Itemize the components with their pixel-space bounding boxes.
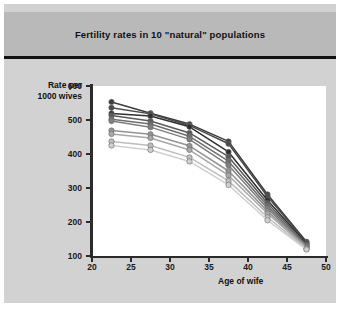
- y-tick-label: 400: [48, 149, 82, 159]
- x-axis-label: Age of wife: [218, 276, 263, 286]
- title-divider: [4, 56, 336, 59]
- y-tick-label: 200: [48, 217, 82, 227]
- chart-title: Fertility rates in 10 "natural" populati…: [75, 29, 265, 40]
- y-tick: [86, 221, 90, 223]
- y-tick-label: 300: [48, 183, 82, 193]
- y-tick: [86, 187, 90, 189]
- y-tick: [86, 119, 90, 121]
- y-axis-line: [90, 84, 93, 258]
- x-tick-label: 20: [77, 262, 107, 272]
- x-tick-label: 45: [272, 262, 302, 272]
- x-tick-label: 35: [194, 262, 224, 272]
- x-tick-label: 30: [155, 262, 185, 272]
- y-tick: [86, 153, 90, 155]
- y-tick: [86, 255, 90, 257]
- plot-area: [92, 86, 326, 256]
- x-tick-label: 25: [116, 262, 146, 272]
- y-tick-label: 100: [48, 251, 82, 261]
- x-tick-label: 40: [233, 262, 263, 272]
- y-axis-label-line2: 1000 wives: [38, 91, 82, 101]
- y-tick-label: 600: [48, 81, 82, 91]
- x-tick-label: 50: [311, 262, 341, 272]
- title-band: Fertility rates in 10 "natural" populati…: [4, 12, 336, 56]
- figure-panel: Fertility rates in 10 "natural" populati…: [4, 4, 336, 303]
- y-tick-label: 500: [48, 115, 82, 125]
- y-tick: [86, 85, 90, 87]
